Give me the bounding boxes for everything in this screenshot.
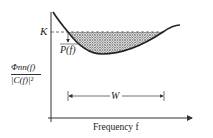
- y-label-numerator: Φnn(f): [11, 62, 35, 72]
- y-label-denominator: |C(f)|²: [11, 75, 33, 85]
- water-fill-region: [68, 32, 163, 54]
- x-axis-label: Frequency f: [93, 122, 139, 132]
- water-level-label: K: [40, 25, 47, 37]
- power-label: P(f): [60, 44, 76, 55]
- bandwidth-label: W: [111, 90, 119, 101]
